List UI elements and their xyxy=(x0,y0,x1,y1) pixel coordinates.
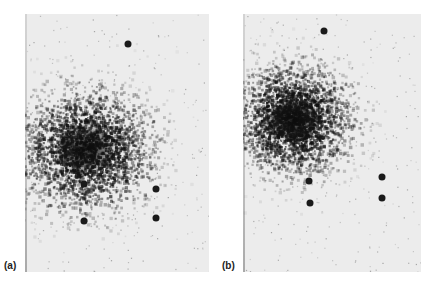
diffraction-spot xyxy=(307,200,314,207)
diffraction-spot xyxy=(81,181,88,188)
scatter-cloud xyxy=(243,14,421,272)
diffraction-panel-a xyxy=(25,14,209,272)
panel-label-b: (b) xyxy=(222,260,235,271)
diffraction-spot xyxy=(379,174,386,181)
diffraction-spot xyxy=(153,215,160,222)
central-beam-core xyxy=(267,97,320,142)
diffraction-spot xyxy=(81,218,88,225)
diffraction-spot xyxy=(321,28,328,35)
central-beam-core xyxy=(55,124,116,174)
diffraction-spot xyxy=(379,195,386,202)
diffraction-spot xyxy=(306,178,313,185)
scatter-cloud xyxy=(25,14,209,272)
diffraction-spot xyxy=(153,186,160,193)
diffraction-spot xyxy=(125,41,132,48)
panel-label-a: (a) xyxy=(4,260,16,271)
diffraction-panel-b xyxy=(243,14,421,272)
